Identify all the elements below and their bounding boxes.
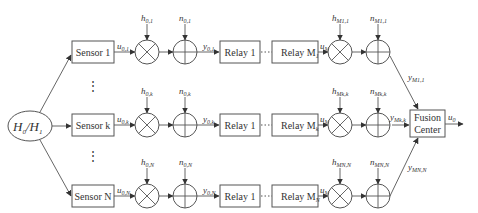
y-label: y0,N <box>202 185 217 196</box>
n-out-label: nMN,N <box>370 157 390 168</box>
relay-last-label: Relay M1 <box>281 47 319 59</box>
relay-last-label: Relay MN <box>281 191 321 203</box>
n-out-label: nMk,k <box>370 86 387 97</box>
wire-source-sensor-1 <box>40 55 71 112</box>
n-label: n0,1 <box>179 13 191 24</box>
n-label: n0,N <box>179 157 193 168</box>
fusion-center: Fusion Center <box>410 110 445 137</box>
relay-last-label: Relay Mk <box>281 120 319 132</box>
row-1: Sensor 1u0,1h0,1n0,1y0,1Relay 1Relay M1u… <box>72 13 390 64</box>
y-out-label-1: yM1,1 <box>407 72 425 83</box>
wire-source-sensor-n <box>40 140 71 196</box>
y-out-label-N: yMN,N <box>407 162 428 173</box>
sensor-label: Sensor k <box>76 120 111 131</box>
relay-first-label: Relay 1 <box>225 191 256 202</box>
vertical-ellipsis: ⋮ <box>87 149 99 163</box>
relay-first-label: Relay 1 <box>225 120 256 131</box>
u-in-label: u0,1 <box>117 41 129 52</box>
distributed-detection-diagram: H0/H1 Sensor 1u0,1h0,1n0,1y0,1Relay 1Rel… <box>0 0 478 213</box>
output-label: u0 <box>448 112 456 123</box>
vertical-ellipsis: ⋮ <box>87 79 99 93</box>
h-out-label: hMN,N <box>332 157 352 168</box>
source-h0: H0/H1 <box>12 119 42 136</box>
u-in-label: u0,k <box>117 114 129 125</box>
sensor-label: Sensor N <box>75 191 112 202</box>
u-in-label: u0,N <box>117 185 131 196</box>
y-out-label-k: yMk,k <box>389 112 406 123</box>
hypothesis-source: H0/H1 <box>8 111 52 141</box>
row-k: Sensor ku0,kh0,kn0,ky0,kRelay 1Relay Mku… <box>72 86 390 137</box>
fusion-label-line1: Fusion <box>414 112 441 123</box>
h-label: h0,k <box>141 86 153 97</box>
y-label: y0,k <box>202 114 215 125</box>
fusion-label-line2: Center <box>414 124 441 135</box>
h-label: h0,1 <box>141 13 153 24</box>
row-N: Sensor Nu0,Nh0,Nn0,Ny0,NRelay 1Relay MNu… <box>72 157 390 208</box>
relay-first-label: Relay 1 <box>225 47 256 58</box>
y-label: y0,1 <box>202 41 215 52</box>
h-label: h0,N <box>141 157 155 168</box>
sensor-label: Sensor 1 <box>76 47 111 58</box>
n-label: n0,k <box>179 86 191 97</box>
h-out-label: hMk,k <box>332 86 349 97</box>
n-out-label: nM1,1 <box>370 13 387 24</box>
h-out-label: hM1,1 <box>332 13 349 24</box>
